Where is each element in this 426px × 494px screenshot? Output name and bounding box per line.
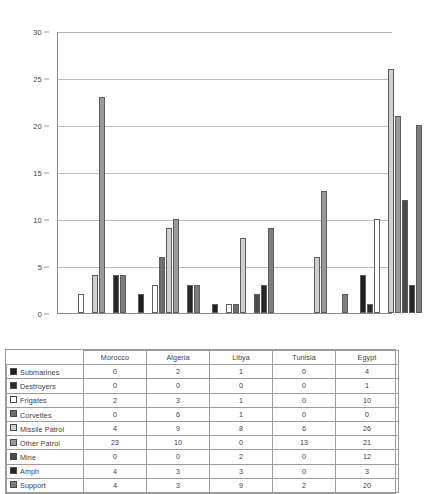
bar-amph bbox=[409, 285, 415, 313]
cell-tunisia: 0 bbox=[273, 407, 336, 421]
cell-egypt: 10 bbox=[336, 393, 399, 407]
legend-swatch-icon bbox=[10, 368, 17, 375]
legend-cell-other-patrol: Other Patrol bbox=[7, 436, 84, 450]
legend-label: Support bbox=[20, 481, 46, 490]
bar-support bbox=[194, 285, 200, 313]
bar-support bbox=[416, 125, 422, 313]
table-body: Submarines02104Destroyers00001Frigates23… bbox=[7, 365, 399, 493]
y-tick-mark bbox=[44, 220, 49, 221]
cell-egypt: 3 bbox=[336, 464, 399, 478]
legend-swatch-icon bbox=[10, 439, 17, 446]
legend-swatch-icon bbox=[10, 396, 17, 403]
cell-tunisia: 0 bbox=[273, 464, 336, 478]
cell-algeria: 2 bbox=[147, 365, 210, 379]
y-tick-label: 20 bbox=[33, 122, 42, 131]
legend-label: Frigates bbox=[20, 396, 47, 405]
table-header-row: MoroccoAlgeriaLibyaTunisiaEgypt bbox=[7, 351, 399, 365]
cell-algeria: 6 bbox=[147, 407, 210, 421]
y-tick-label: 5 bbox=[38, 263, 42, 272]
bar-other-patrol bbox=[321, 191, 327, 313]
legend-cell-mine: Mine bbox=[7, 450, 84, 464]
cell-algeria: 3 bbox=[147, 393, 210, 407]
legend-cell-destroyers: Destroyers bbox=[7, 379, 84, 393]
bar-frigates bbox=[78, 294, 84, 313]
table-row: Support439220 bbox=[7, 478, 399, 492]
cell-algeria: 0 bbox=[147, 450, 210, 464]
column-header-algeria: Algeria bbox=[147, 351, 210, 365]
legend-label: Mine bbox=[20, 453, 36, 462]
bar-group-morocco bbox=[58, 32, 132, 313]
cell-libya: 3 bbox=[210, 464, 273, 478]
legend-cell-missile-patrol: Missile Patrol bbox=[7, 421, 84, 435]
cell-libya: 0 bbox=[210, 379, 273, 393]
cell-tunisia: 0 bbox=[273, 365, 336, 379]
bar-amph bbox=[113, 275, 119, 313]
cell-libya: 8 bbox=[210, 421, 273, 435]
legend-label: Other Patrol bbox=[20, 439, 60, 448]
table-row: Destroyers00001 bbox=[7, 379, 399, 393]
legend-label: Missile Patrol bbox=[20, 424, 64, 433]
bar-support bbox=[342, 294, 348, 313]
bar-chart: 051015202530 bbox=[0, 0, 399, 350]
bar-missile-patrol bbox=[240, 238, 246, 313]
y-tick-mark bbox=[44, 79, 49, 80]
bar-groups bbox=[58, 32, 392, 313]
cell-libya: 1 bbox=[210, 407, 273, 421]
bar-submarines bbox=[360, 275, 366, 313]
legend-label: Corvettes bbox=[20, 410, 52, 419]
table-row: Other Patrol231001321 bbox=[7, 436, 399, 450]
cell-libya: 2 bbox=[210, 450, 273, 464]
legend-label: Amph bbox=[20, 467, 39, 476]
legend-swatch-icon bbox=[10, 453, 17, 460]
cell-morocco: 0 bbox=[84, 365, 147, 379]
cell-egypt: 26 bbox=[336, 421, 399, 435]
bar-corvettes bbox=[233, 304, 239, 313]
cell-tunisia: 13 bbox=[273, 436, 336, 450]
cell-egypt: 0 bbox=[336, 407, 399, 421]
cell-algeria: 3 bbox=[147, 478, 210, 492]
cell-morocco: 4 bbox=[84, 464, 147, 478]
y-axis: 051015202530 bbox=[0, 0, 52, 350]
table-corner-cell bbox=[7, 351, 84, 365]
bar-amph bbox=[187, 285, 193, 313]
table: MoroccoAlgeriaLibyaTunisiaEgypt Submarin… bbox=[6, 350, 399, 493]
bar-frigates bbox=[152, 285, 158, 313]
table-row: Corvettes06100 bbox=[7, 407, 399, 421]
bar-frigates bbox=[226, 304, 232, 313]
legend-swatch-icon bbox=[10, 467, 17, 474]
bar-other-patrol bbox=[99, 97, 105, 313]
cell-morocco: 2 bbox=[84, 393, 147, 407]
legend-cell-corvettes: Corvettes bbox=[7, 407, 84, 421]
cell-egypt: 20 bbox=[336, 478, 399, 492]
table-row: Frigates231010 bbox=[7, 393, 399, 407]
bar-frigates bbox=[374, 219, 380, 313]
cell-algeria: 0 bbox=[147, 379, 210, 393]
table-row: Mine002012 bbox=[7, 450, 399, 464]
y-tick-label: 30 bbox=[33, 28, 42, 37]
y-tick-label: 15 bbox=[33, 169, 42, 178]
cell-morocco: 0 bbox=[84, 407, 147, 421]
legend-cell-amph: Amph bbox=[7, 464, 84, 478]
cell-tunisia: 2 bbox=[273, 478, 336, 492]
bar-destroyers bbox=[367, 304, 373, 313]
column-header-egypt: Egypt bbox=[336, 351, 399, 365]
bar-missile-patrol bbox=[388, 69, 394, 313]
legend-cell-submarines: Submarines bbox=[7, 365, 84, 379]
cell-egypt: 21 bbox=[336, 436, 399, 450]
cell-libya: 1 bbox=[210, 365, 273, 379]
bar-submarines bbox=[138, 294, 144, 313]
bar-group-libya bbox=[206, 32, 280, 313]
cell-tunisia: 6 bbox=[273, 421, 336, 435]
y-tick-mark bbox=[44, 126, 49, 127]
bar-mine bbox=[254, 294, 260, 313]
y-tick-mark bbox=[44, 173, 49, 174]
legend-swatch-icon bbox=[10, 481, 17, 488]
legend-swatch-icon bbox=[10, 424, 17, 431]
bar-support bbox=[120, 275, 126, 313]
cell-morocco: 23 bbox=[84, 436, 147, 450]
cell-morocco: 0 bbox=[84, 450, 147, 464]
bar-amph bbox=[261, 285, 267, 313]
table-row: Missile Patrol498626 bbox=[7, 421, 399, 435]
column-header-tunisia: Tunisia bbox=[273, 351, 336, 365]
y-tick-mark bbox=[44, 267, 49, 268]
